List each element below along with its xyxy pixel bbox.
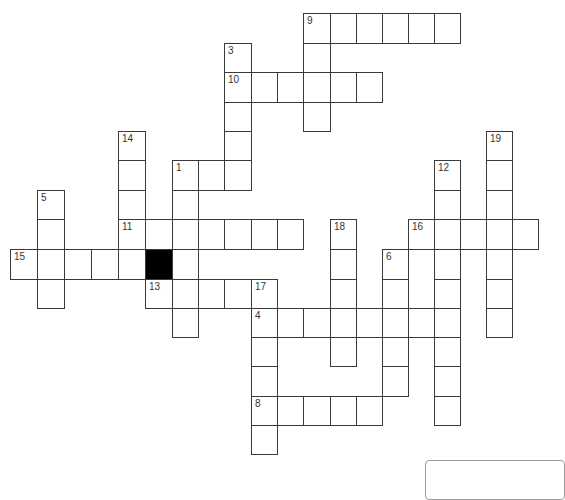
clue-number: 4 xyxy=(255,311,261,321)
grid-cell[interactable] xyxy=(277,219,304,250)
grid-cell[interactable] xyxy=(408,13,435,44)
grid-cell[interactable]: 4 xyxy=(251,308,278,338)
grid-cell[interactable] xyxy=(251,337,278,367)
clue-number: 14 xyxy=(122,134,133,144)
grid-cell[interactable] xyxy=(382,308,409,338)
grid-cell[interactable] xyxy=(434,13,461,44)
grid-cell[interactable] xyxy=(486,279,513,309)
grid-cell[interactable] xyxy=(382,279,409,309)
grid-cell[interactable] xyxy=(198,219,225,250)
grid-cell[interactable] xyxy=(224,102,252,132)
grid-cell[interactable]: 1 xyxy=(172,160,199,191)
grid-cell[interactable]: 18 xyxy=(330,219,357,250)
grid-cell[interactable] xyxy=(356,308,383,338)
grid-cell[interactable]: 6 xyxy=(382,249,409,280)
grid-cell[interactable] xyxy=(303,43,331,73)
grid-cell[interactable] xyxy=(408,308,435,338)
grid-cell[interactable] xyxy=(251,219,278,250)
grid-cell[interactable] xyxy=(434,249,461,280)
grid-cell[interactable] xyxy=(37,249,65,280)
clue-number: 17 xyxy=(255,282,266,292)
grid-cell[interactable] xyxy=(486,160,513,191)
grid-cell[interactable] xyxy=(486,249,513,280)
grid-cell[interactable] xyxy=(382,337,409,367)
grid-cell[interactable] xyxy=(303,308,331,338)
grid-cell[interactable] xyxy=(224,279,252,309)
grid-cell[interactable] xyxy=(330,279,357,309)
grid-cell[interactable]: 5 xyxy=(37,190,65,220)
grid-cell[interactable] xyxy=(486,219,513,250)
grid-cell[interactable] xyxy=(277,308,304,338)
grid-cell[interactable]: 12 xyxy=(434,160,461,191)
grid-cell[interactable] xyxy=(330,13,357,44)
grid-cell[interactable]: 17 xyxy=(251,279,278,309)
clue-number: 3 xyxy=(228,46,234,56)
grid-cell[interactable] xyxy=(434,366,461,397)
grid-cell[interactable] xyxy=(91,249,119,280)
grid-cell[interactable] xyxy=(460,219,487,250)
clue-number: 5 xyxy=(41,193,47,203)
grid-cell[interactable]: 11 xyxy=(118,219,146,250)
grid-cell[interactable] xyxy=(356,72,383,103)
grid-cell[interactable] xyxy=(224,219,252,250)
grid-cell[interactable] xyxy=(118,249,146,280)
grid-cell[interactable] xyxy=(224,160,252,191)
grid-cell[interactable] xyxy=(198,279,225,309)
grid-cell[interactable]: 8 xyxy=(251,396,278,426)
grid-cell[interactable] xyxy=(37,219,65,250)
grid-cell[interactable] xyxy=(330,72,357,103)
clue-number: 8 xyxy=(255,399,261,409)
grid-cell[interactable]: 16 xyxy=(408,219,435,250)
grid-cell[interactable]: 9 xyxy=(303,13,331,44)
grid-cell[interactable] xyxy=(277,396,304,426)
grid-cell[interactable] xyxy=(486,308,513,338)
grid-cell[interactable] xyxy=(330,396,357,426)
grid-cell[interactable] xyxy=(512,219,539,250)
grid-cell[interactable]: 13 xyxy=(145,279,173,309)
grid-cell[interactable] xyxy=(303,72,331,103)
grid-cell[interactable] xyxy=(330,249,357,280)
grid-cell[interactable]: 15 xyxy=(10,249,38,280)
grid-cell[interactable]: 14 xyxy=(118,131,146,161)
clue-number: 13 xyxy=(149,282,160,292)
grid-cell[interactable] xyxy=(198,160,225,191)
grid-cell[interactable]: 19 xyxy=(486,131,513,161)
grid-cell[interactable] xyxy=(303,396,331,426)
grid-cell[interactable] xyxy=(172,249,199,280)
grid-cell[interactable] xyxy=(277,72,304,103)
grid-cell[interactable] xyxy=(434,396,461,426)
grid-cell[interactable] xyxy=(434,190,461,220)
grid-cell[interactable] xyxy=(172,308,199,338)
grid-cell[interactable] xyxy=(118,190,146,220)
grid-cell[interactable] xyxy=(434,308,461,338)
grid-cell[interactable] xyxy=(64,249,92,280)
grid-cell[interactable] xyxy=(251,72,278,103)
grid-cell[interactable] xyxy=(330,337,357,367)
grid-cell[interactable] xyxy=(251,425,278,455)
grid-cell[interactable] xyxy=(303,102,331,132)
grid-cell[interactable] xyxy=(434,219,461,250)
grid-cell[interactable] xyxy=(172,279,199,309)
grid-cell[interactable] xyxy=(434,279,461,309)
grid-cell[interactable] xyxy=(172,219,199,250)
grid-cell[interactable] xyxy=(382,366,409,397)
grid-cell[interactable]: 3 xyxy=(224,43,252,73)
grid-cell[interactable] xyxy=(356,396,383,426)
grid-cell[interactable] xyxy=(382,13,409,44)
grid-cell[interactable] xyxy=(486,190,513,220)
clue-number: 16 xyxy=(412,222,423,232)
grid-cell[interactable] xyxy=(145,219,173,250)
grid-cell[interactable] xyxy=(37,279,65,309)
grid-cell[interactable] xyxy=(251,366,278,397)
clue-number: 18 xyxy=(334,222,345,232)
grid-cell[interactable] xyxy=(118,160,146,191)
grid-cell[interactable] xyxy=(172,190,199,220)
clue-number: 1 xyxy=(176,163,182,173)
grid-cell[interactable] xyxy=(224,131,252,161)
grid-cell[interactable] xyxy=(330,308,357,338)
clue-number: 11 xyxy=(122,222,132,232)
grid-cell[interactable] xyxy=(434,337,461,367)
grid-cell[interactable] xyxy=(356,13,383,44)
grid-cell[interactable]: 10 xyxy=(224,72,252,103)
